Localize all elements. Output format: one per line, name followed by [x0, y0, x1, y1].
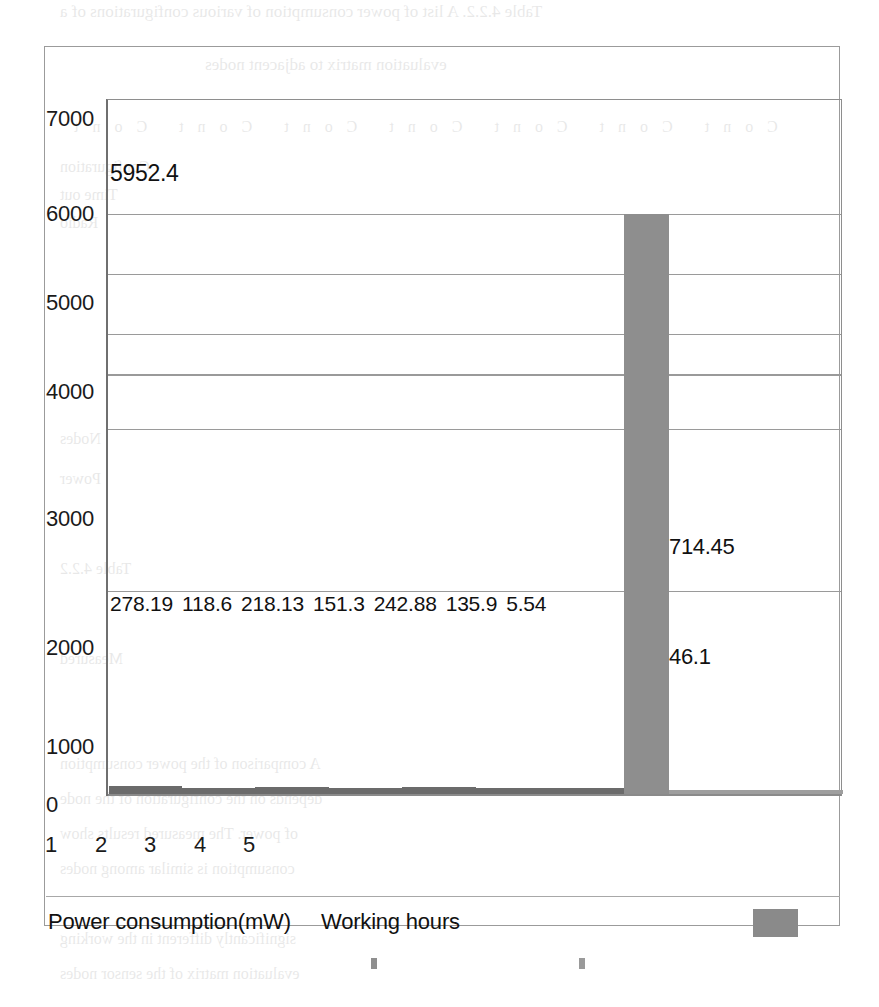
y-tick-0: 0 [46, 792, 58, 818]
scan-artifact-dot [579, 958, 585, 969]
bleed-line: evaluation matrix of the sensor nodes [60, 965, 300, 983]
bleed-line: Table 4.2.2. A list of power consumption… [60, 2, 542, 22]
legend-swatch-working-hours [753, 909, 798, 937]
data-label-151: 151.3 [313, 592, 365, 615]
legend-item-power-consumption[interactable]: Power consumption(mW) [48, 909, 291, 935]
legend-item-working-hours[interactable]: Working hours [321, 909, 460, 935]
y-tick-4000: 4000 [46, 379, 94, 405]
y-tick-1000: 1000 [46, 734, 94, 760]
bar-power-5[interactable] [402, 787, 476, 794]
data-label-135: 135.9 [446, 592, 498, 615]
bar-power-1[interactable] [109, 786, 182, 794]
gridline-6000 [108, 214, 841, 215]
y-tick-7000: 7000 [46, 106, 94, 132]
gridline [108, 274, 841, 275]
data-label-5952: 5952.4 [110, 160, 179, 187]
data-label-714: 714.45 [669, 534, 735, 560]
gridline-5000 [108, 334, 841, 335]
y-tick-2000: 2000 [46, 635, 94, 661]
scan-artifact-dot [371, 958, 377, 969]
data-label-278: 278.19 [110, 592, 173, 615]
bar-power-3[interactable] [255, 787, 329, 794]
x-tick-4: 4 [194, 832, 206, 858]
data-label-242: 242.88 [374, 592, 437, 615]
chart-legend: Power consumption(mW) Working hours [46, 896, 840, 956]
y-tick-3000: 3000 [46, 506, 94, 532]
gridline [108, 429, 841, 430]
data-label-5-54: 5.54 [506, 592, 546, 615]
gridline [108, 375, 841, 376]
data-label-218: 218.13 [241, 592, 304, 615]
x-tick-3: 3 [144, 832, 156, 858]
x-axis-baseline [108, 794, 841, 796]
data-label-118: 118.6 [182, 592, 232, 615]
bar-working-hours[interactable] [624, 214, 669, 794]
x-tick-1: 1 [45, 832, 57, 858]
y-tick-6000: 6000 [46, 201, 94, 227]
data-label-row-power: 278.19118.6218.13151.3242.88135.95.54 [110, 592, 546, 616]
data-label-46: 46.1 [669, 644, 711, 670]
plot-area [106, 99, 842, 796]
x-tick-2: 2 [95, 832, 107, 858]
y-tick-5000: 5000 [46, 290, 94, 316]
x-tick-5: 5 [243, 832, 255, 858]
